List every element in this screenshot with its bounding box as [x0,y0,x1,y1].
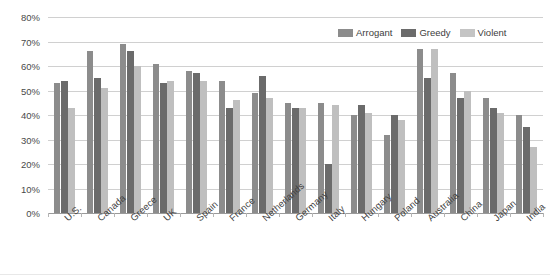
bar[interactable] [424,78,431,213]
y-tick-label: 50% [21,85,40,96]
x-tick [543,213,544,217]
bar[interactable] [431,49,438,213]
x-tick [279,213,280,217]
y-tick-label: 70% [21,36,40,47]
bar[interactable] [497,113,504,213]
bar[interactable] [358,105,365,213]
bar[interactable] [153,64,160,213]
bar[interactable] [134,66,141,213]
y-tick-label: 80% [21,12,40,23]
y-tick-label: 40% [21,110,40,121]
x-tick [444,213,445,217]
bar[interactable] [516,115,523,213]
legend-item-greedy[interactable]: Greedy [401,28,450,38]
bar-group [510,17,543,213]
legend-swatch-arrogant [338,29,353,37]
bar[interactable] [299,108,306,213]
bar-group [81,17,114,213]
legend-item-arrogant[interactable]: Arrogant [338,28,392,38]
bar[interactable] [266,98,273,213]
x-tick [180,213,181,217]
x-tick [510,213,511,217]
x-tick [345,213,346,217]
bottom-rule [0,274,550,275]
x-tick [114,213,115,217]
bar[interactable] [523,127,530,213]
bar[interactable] [193,73,200,213]
bar[interactable] [464,91,471,214]
y-tick-label: 30% [21,134,40,145]
bar[interactable] [127,51,134,213]
x-tick [378,213,379,217]
x-tick [48,213,49,217]
x-tick [147,213,148,217]
y-tick-label: 20% [21,159,40,170]
bar-group [147,17,180,213]
legend-label-arrogant: Arrogant [356,28,392,38]
bar-group [246,17,279,213]
bar[interactable] [101,88,108,213]
legend-item-violent[interactable]: Violent [460,28,507,38]
bar-group [345,17,378,213]
bar[interactable] [325,164,332,213]
bar-group [312,17,345,213]
legend-label-greedy: Greedy [419,28,450,38]
x-tick [477,213,478,217]
bar[interactable] [68,108,75,213]
bar[interactable] [483,98,490,213]
x-tick [246,213,247,217]
bar-group [477,17,510,213]
x-tick [411,213,412,217]
bar-group [48,17,81,213]
legend-swatch-violent [460,29,475,37]
y-axis-labels: 80%70%60%50%40%30%20%10%0% [0,17,44,213]
y-tick-label: 10% [21,183,40,194]
chart-legend: Arrogant Greedy Violent [338,28,506,38]
bar-group [114,17,147,213]
bar[interactable] [200,81,207,213]
bar[interactable] [120,44,127,213]
bar[interactable] [252,93,259,213]
bar[interactable] [351,115,358,213]
x-tick [312,213,313,217]
bar[interactable] [219,81,226,213]
bar[interactable] [94,78,101,213]
bar[interactable] [259,76,266,213]
legend-swatch-greedy [401,29,416,37]
bar[interactable] [186,71,193,213]
bar[interactable] [226,108,233,213]
x-tick [81,213,82,217]
bar[interactable] [160,83,167,213]
bar-group [378,17,411,213]
y-tick-label: 60% [21,61,40,72]
bar-group [444,17,477,213]
bar[interactable] [54,83,61,213]
x-axis-labels: U.S.CanadaGreeceUKSpainFranceNetherlands… [48,215,543,275]
bar[interactable] [490,108,497,213]
bar-group [213,17,246,213]
bar[interactable] [61,81,68,213]
bar[interactable] [233,100,240,213]
bar[interactable] [417,49,424,213]
x-tick [213,213,214,217]
legend-label-violent: Violent [478,28,507,38]
bar-group [411,17,444,213]
bar-chart: 80%70%60%50%40%30%20%10%0% U.S.CanadaGre… [0,0,550,276]
bar[interactable] [87,51,94,213]
y-tick-label: 0% [26,208,40,219]
bar[interactable] [167,81,174,213]
bar-group [180,17,213,213]
bar[interactable] [365,113,372,213]
bar[interactable] [332,105,339,213]
bar[interactable] [398,120,405,213]
